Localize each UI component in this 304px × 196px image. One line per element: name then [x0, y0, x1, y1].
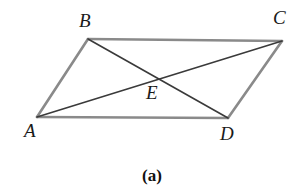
vertex-label-b: B: [79, 11, 91, 30]
side-BC-line: [88, 39, 282, 41]
vertex-label-d: D: [220, 124, 234, 143]
side-AB-line: [37, 39, 88, 117]
vertex-label-c: C: [273, 8, 286, 27]
geometry-figure: A B C D E (a): [0, 0, 304, 196]
side-DA-line: [37, 117, 228, 118]
vertex-label-a: A: [24, 121, 36, 140]
parallelogram-diagonals: [37, 39, 282, 118]
diagonal-BD-line: [88, 39, 228, 118]
figure-caption: (a): [0, 166, 304, 186]
vertex-label-e: E: [146, 83, 158, 102]
side-CD-line: [228, 41, 282, 118]
